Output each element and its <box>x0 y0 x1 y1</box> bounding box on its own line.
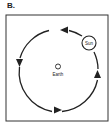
sun-label: Sun <box>85 41 94 46</box>
orbit-diagram: Sun Earth <box>0 0 111 127</box>
earth: Earth <box>53 64 64 77</box>
sun: Sun <box>82 36 96 50</box>
arrow-right-icon <box>54 107 62 114</box>
arrow-down-icon <box>16 59 23 67</box>
earth-label: Earth <box>53 72 64 77</box>
arrow-up-icon <box>94 70 101 78</box>
earth-circle <box>56 64 61 69</box>
arrow-left-icon <box>60 27 68 34</box>
